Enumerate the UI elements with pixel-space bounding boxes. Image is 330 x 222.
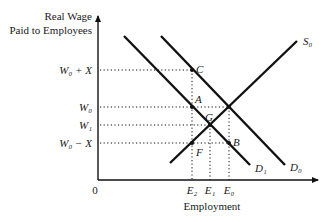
label-d0: D₀ [289,161,302,173]
tick-w0-minus-x: W₀ − X [59,137,93,149]
tick-e0: E₀ [223,184,235,196]
label-point-c: C [196,63,204,75]
point-equilibrium-d0-s0 [227,105,231,109]
point-g [208,123,212,127]
tick-e1: E₁ [204,184,216,196]
tick-w0-plus-x: W₀ + X [59,64,93,76]
origin-label: 0 [92,184,98,196]
label-point-b: B [233,136,240,148]
y-axis-label-line2: Paid to Employees [10,24,93,36]
demand-curve-d0 [161,36,285,165]
label-point-g: G [205,111,213,123]
point-b [227,141,231,145]
label-point-a: A [194,93,202,105]
point-f [190,141,194,145]
tick-e2: E₂ [186,184,198,196]
tick-w0: W₀ [79,101,92,113]
x-axis-label: Employment [184,200,241,212]
wage-employment-diagram: Real Wage Paid to Employees Employment 0… [0,0,330,222]
label-d1: D₁ [254,162,267,174]
point-a [190,105,194,109]
point-c [190,68,194,72]
label-s0: S₀ [303,35,313,47]
points [190,68,231,145]
label-point-f: F [195,146,203,158]
tick-w1: W₁ [79,119,92,131]
y-axis-label-line1: Real Wage [45,10,93,22]
